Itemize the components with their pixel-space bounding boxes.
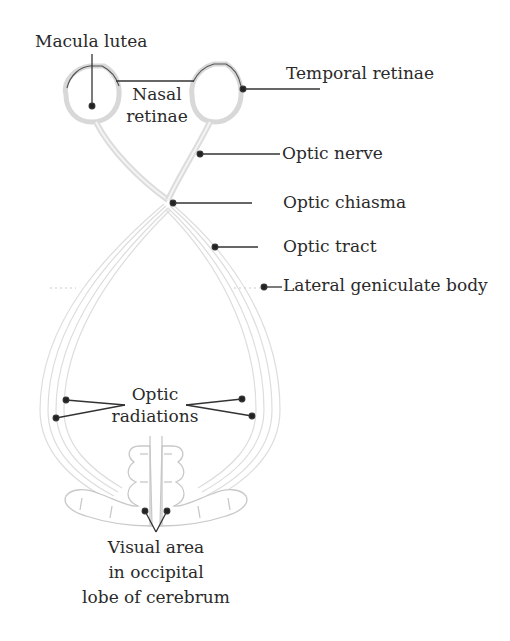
label-visual-area-1: Visual area	[86, 537, 226, 558]
optic-tracts-radiations	[40, 204, 280, 500]
label-macula-lutea: Macula lutea	[35, 31, 147, 52]
label-nasal-retinae-2: retinae	[120, 106, 194, 127]
label-visual-area-3: lobe of cerebrum	[70, 587, 242, 608]
optic-nerves	[96, 122, 210, 200]
label-optic-radiations-2: radiations	[110, 406, 200, 427]
label-temporal-retinae: Temporal retinae	[286, 63, 434, 84]
label-optic-chiasma: Optic chiasma	[283, 192, 406, 213]
label-optic-nerve: Optic nerve	[282, 143, 383, 164]
label-optic-tract: Optic tract	[283, 236, 376, 257]
visual-pathway-diagram	[0, 0, 510, 641]
right-eye	[192, 64, 241, 122]
label-optic-radiations-1: Optic	[120, 384, 190, 405]
label-visual-area-2: in occipital	[86, 562, 226, 583]
label-lateral-geniculate-body: Lateral geniculate body	[283, 275, 488, 296]
label-nasal-retinae-1: Nasal	[125, 84, 189, 105]
